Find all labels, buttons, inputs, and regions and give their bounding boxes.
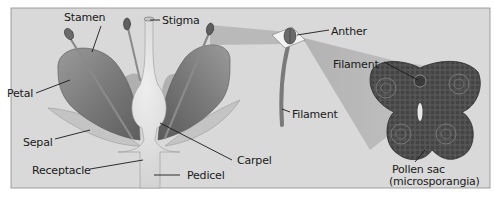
label-petal: Petal (7, 87, 33, 100)
label-filament-stamen: Filament (292, 108, 338, 121)
label-receptacle: Receptacle (32, 164, 91, 177)
label-sepal: Sepal (23, 136, 53, 149)
label-stamen: Stamen (64, 11, 106, 24)
label-carpel: Carpel (237, 154, 272, 167)
label-stigma: Stigma (162, 14, 200, 27)
label-anther: Anther (331, 25, 368, 38)
label-pedicel: Pedicel (187, 169, 225, 182)
label-microsporangia: (microsporangia) (389, 175, 480, 188)
flower-anatomy-diagram: Stamen Stigma Petal Sepal Receptacle Ped… (0, 0, 494, 198)
label-filament-section: Filament (333, 58, 379, 71)
filament-bundle (414, 75, 426, 87)
